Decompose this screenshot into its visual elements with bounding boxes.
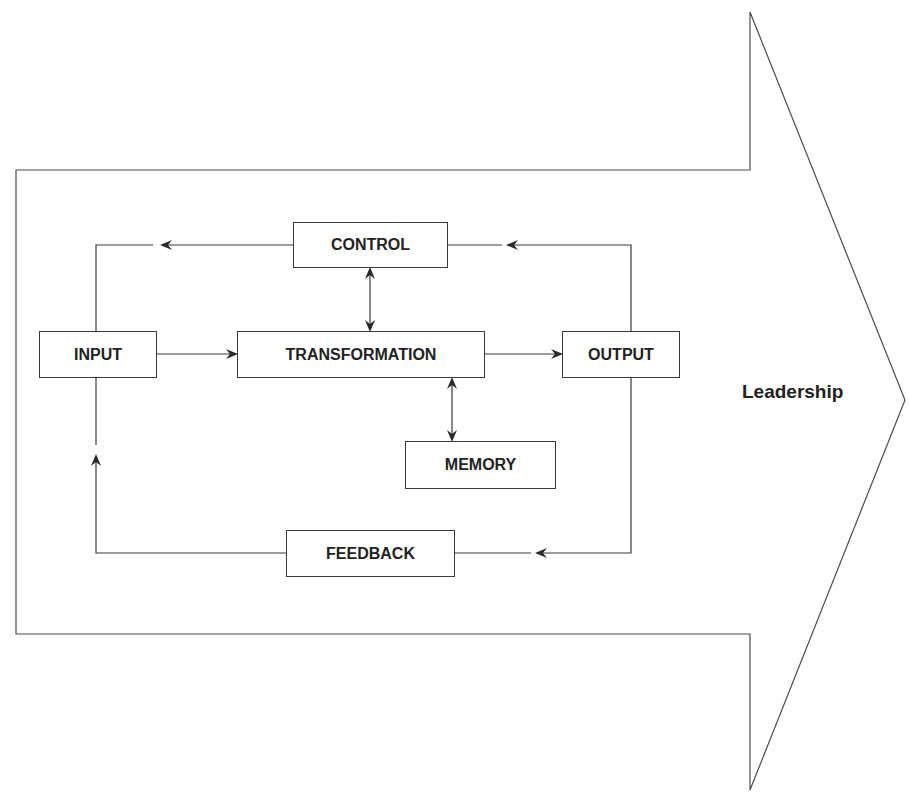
edge-feedback-input [96,456,286,553]
node-output-label: OUTPUT [588,346,654,364]
node-feedback: FEEDBACK [286,530,455,577]
node-control-label: CONTROL [331,236,410,254]
node-output: OUTPUT [562,331,680,378]
edge-output-control [508,245,631,331]
leadership-label: Leadership [742,381,843,403]
node-input: INPUT [39,331,157,378]
node-input-label: INPUT [74,346,122,364]
node-control: CONTROL [293,222,448,268]
node-memory: MEMORY [405,441,556,489]
node-memory-label: MEMORY [445,456,516,474]
node-transformation: TRANSFORMATION [237,331,485,378]
node-feedback-label: FEEDBACK [326,545,415,563]
diagram-canvas [0,0,910,806]
node-transformation-label: TRANSFORMATION [286,346,437,364]
